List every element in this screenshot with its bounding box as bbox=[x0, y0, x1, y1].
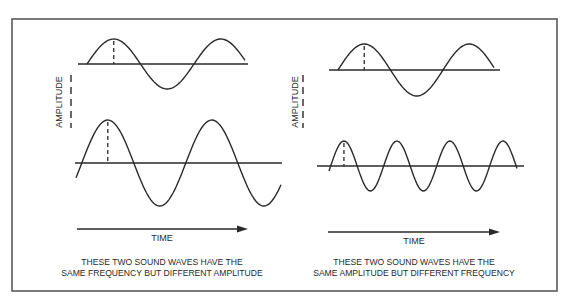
figure-frame bbox=[12, 19, 557, 291]
caption-line-2: SAME FREQUENCY BUT DIFFERENT AMPLITUDE bbox=[61, 268, 263, 278]
arrowhead-icon bbox=[489, 229, 500, 236]
panel-same-amplitude: AMPLITUDE TIME THESE TWO SOUND WAVES HAV… bbox=[290, 44, 524, 278]
time-label: TIME bbox=[403, 236, 425, 246]
sound-wave-diagram: AMPLITUDE TIME THESE TWO SOUND WAVES HAV… bbox=[0, 0, 565, 306]
time-label: TIME bbox=[151, 233, 173, 243]
amplitude-label: AMPLITUDE bbox=[290, 76, 300, 128]
clipped-figure-caption bbox=[12, 302, 552, 306]
caption-line-1: THESE TWO SOUND WAVES HAVE THE bbox=[333, 257, 495, 267]
arrowhead-icon bbox=[237, 226, 248, 233]
amplitude-label: AMPLITUDE bbox=[54, 76, 64, 128]
panel-same-frequency: AMPLITUDE TIME THESE TWO SOUND WAVES HAV… bbox=[54, 39, 282, 278]
caption-line-2: SAME AMPLITUDE BUT DIFFERENT FREQUENCY bbox=[313, 268, 515, 278]
caption-line-1: THESE TWO SOUND WAVES HAVE THE bbox=[81, 257, 243, 267]
